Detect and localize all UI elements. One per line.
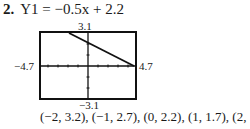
function-line — [69, 33, 134, 66]
table-of-points: (−2, 3.2), (−1, 2.7), (0, 2.2), (1, 1.7)… — [40, 109, 250, 125]
